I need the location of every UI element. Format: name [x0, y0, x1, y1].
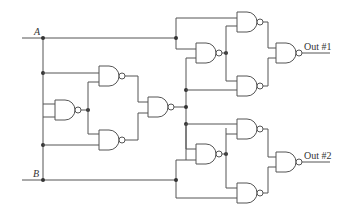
output-1-label: Out #1 [304, 42, 332, 52]
nand-gate-2 [43, 66, 148, 102]
output-2-label: Out #2 [304, 151, 332, 161]
input-a-label: A [34, 27, 40, 37]
nand-gate-4 [148, 97, 186, 117]
nand-gate-bottom-mid [186, 124, 228, 188]
logic-circuit-diagram [0, 0, 348, 218]
b-branch-bottom [174, 160, 237, 198]
nand-gate-1 [43, 82, 90, 134]
nand-gate-top-lower [186, 58, 276, 96]
nand-gate-top-upper [226, 12, 276, 48]
nand-gate-top-mid [186, 26, 228, 81]
input-b-label: B [33, 169, 39, 179]
left-bus [41, 36, 45, 182]
